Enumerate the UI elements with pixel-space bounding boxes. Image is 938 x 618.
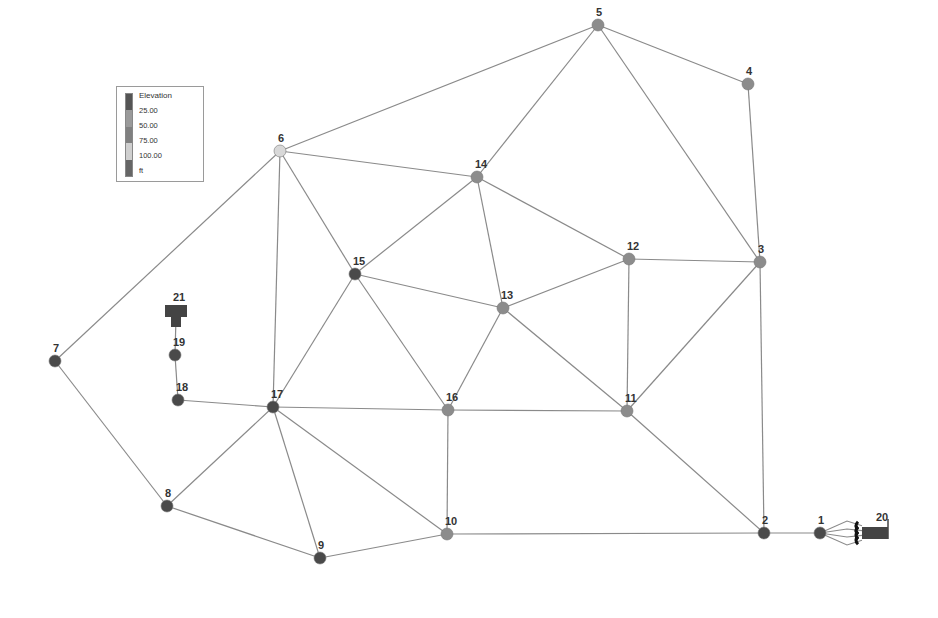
pipe-14-15[interactable] (355, 177, 477, 274)
pipe-6-7[interactable] (55, 151, 280, 361)
junction-15[interactable] (349, 268, 361, 280)
pipe-15-16[interactable] (355, 274, 448, 410)
tank-21-icon[interactable] (165, 305, 187, 317)
junction-14-label: 14 (475, 158, 488, 170)
pipe-14-12[interactable] (477, 177, 629, 259)
junction-18-label: 18 (176, 381, 188, 393)
junction-10[interactable] (441, 528, 453, 540)
junction-13[interactable] (497, 302, 509, 314)
tank-21-base (171, 317, 181, 327)
pipe-5-14[interactable] (477, 25, 598, 177)
legend-label-75: 75.00 (139, 136, 158, 145)
junction-7-label: 7 (53, 342, 59, 354)
pipe-15-17[interactable] (273, 274, 355, 407)
pipe-11-2[interactable] (627, 411, 764, 533)
pipe-15-13[interactable] (355, 274, 503, 308)
pipe-12-3[interactable] (629, 259, 760, 262)
tank-21-label: 21 (173, 291, 185, 303)
pipe-7-8[interactable] (55, 361, 167, 506)
pipe-5-6[interactable] (280, 25, 598, 151)
legend-color-bar (125, 93, 133, 177)
pipe-17-8[interactable] (167, 407, 273, 506)
junction-1-label: 1 (818, 514, 824, 526)
junction-2[interactable] (758, 527, 770, 539)
pipe-14-13[interactable] (477, 177, 503, 308)
junction-12[interactable] (623, 253, 635, 265)
junction-17[interactable] (267, 401, 279, 413)
pipe-17-9[interactable] (273, 407, 320, 558)
pipe-13-11[interactable] (503, 308, 627, 411)
junction-18[interactable] (172, 394, 184, 406)
junction-7[interactable] (49, 355, 61, 367)
junction-3-label: 3 (758, 243, 764, 255)
junction-16[interactable] (442, 404, 454, 416)
pipe-17-10[interactable] (273, 407, 447, 534)
junction-11[interactable] (621, 405, 633, 417)
junction-10-label: 10 (445, 515, 457, 527)
pipe-10-2[interactable] (447, 533, 764, 534)
junction-19-label: 19 (173, 336, 185, 348)
junction-15-label: 15 (353, 255, 365, 267)
pipe-8-9[interactable] (167, 506, 320, 558)
reservoir-20-icon[interactable] (862, 527, 888, 539)
junction-9[interactable] (314, 552, 326, 564)
pipe-9-10[interactable] (320, 534, 447, 558)
junction-19[interactable] (169, 349, 181, 361)
legend-label-100: 100.00 (139, 151, 162, 160)
legend-title: Elevation (139, 91, 172, 100)
junction-4[interactable] (742, 78, 754, 90)
legend-label-25: 25.00 (139, 106, 158, 115)
legend-unit: ft (139, 166, 143, 175)
junction-6-label: 6 (278, 132, 284, 144)
pump-icon[interactable] (856, 536, 858, 544)
pipe-17-16[interactable] (273, 407, 448, 410)
pipe-5-4[interactable] (598, 25, 748, 84)
pipe-3-2[interactable] (760, 262, 764, 533)
junction-5-label: 5 (596, 6, 602, 18)
junction-8[interactable] (161, 500, 173, 512)
junction-2-label: 2 (762, 514, 768, 526)
junction-16-label: 16 (446, 391, 458, 403)
junction-13-label: 13 (501, 289, 513, 301)
junction-14[interactable] (471, 171, 483, 183)
pipe-13-12[interactable] (503, 259, 629, 308)
junction-12-label: 12 (627, 240, 639, 252)
junction-5[interactable] (592, 19, 604, 31)
junction-11-label: 11 (625, 392, 637, 404)
pipe-6-17[interactable] (273, 151, 280, 407)
pipe-5-3[interactable] (598, 25, 760, 262)
junction-4-label: 4 (746, 65, 753, 77)
junction-3[interactable] (754, 256, 766, 268)
pipe-3-11[interactable] (627, 262, 760, 411)
elevation-legend[interactable]: Elevation 25.00 50.00 75.00 100.00 ft (116, 86, 204, 182)
pipe-12-11[interactable] (627, 259, 629, 411)
pipe-17-18[interactable] (178, 400, 273, 407)
pipe-6-14[interactable] (280, 151, 477, 177)
junction-6[interactable] (274, 145, 286, 157)
pipe-6-15[interactable] (280, 151, 355, 274)
legend-label-50: 50.00 (139, 121, 158, 130)
pipe-4-3[interactable] (748, 84, 760, 262)
junction-17-label: 17 (271, 388, 283, 400)
reservoir-20-label: 20 (876, 511, 888, 523)
junction-9-label: 9 (318, 539, 324, 551)
junction-8-label: 8 (165, 487, 171, 499)
pipe-16-11[interactable] (448, 410, 627, 411)
junction-1[interactable] (814, 527, 826, 539)
pipe-18-19[interactable] (175, 355, 178, 400)
